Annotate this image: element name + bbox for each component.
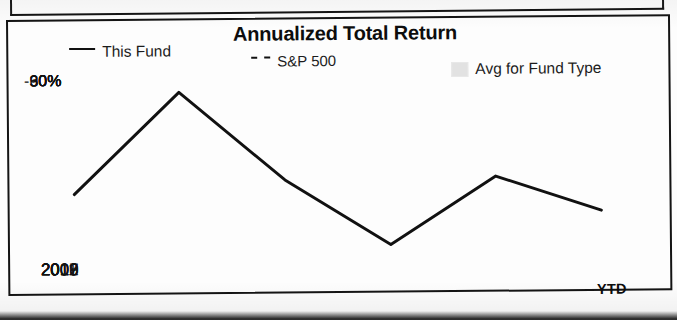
legend-label-sp500: S&P 500 [277, 52, 336, 69]
legend-label-avg-fund-type: Avg for Fund Type [475, 59, 601, 78]
x-tick-label: 2012 [41, 260, 79, 280]
chart-title: Annualized Total Return [195, 21, 495, 46]
ytd-label: YTD [597, 281, 627, 297]
x-axis-labels: 2007 2008 2009 2010 2011 2012 [41, 255, 661, 304]
legend-item-avg-fund-type: Avg for Fund Type [451, 58, 601, 78]
plot-area [69, 76, 615, 260]
chart-svg [69, 76, 615, 260]
dashed-line-swatch-icon [251, 57, 270, 59]
y-axis-labels: 90% 60% 30% 0% -30% [0, 72, 63, 252]
scan-bottom-shadow [0, 311, 677, 320]
shaded-band-swatch-icon [451, 62, 468, 77]
this-fund-line [73, 89, 601, 247]
scanned-page: Annualized Total Return This Fund S&P 50… [0, 0, 677, 320]
legend-item-sp500: S&P 500 [251, 50, 336, 69]
solid-line-swatch-icon [69, 48, 95, 50]
chart-content: Annualized Total Return This Fund S&P 50… [0, 0, 677, 320]
legend-label-this-fund: This Fund [102, 42, 171, 61]
y-tick-label: -30% [24, 72, 61, 90]
legend-item-this-fund: This Fund [69, 41, 171, 61]
